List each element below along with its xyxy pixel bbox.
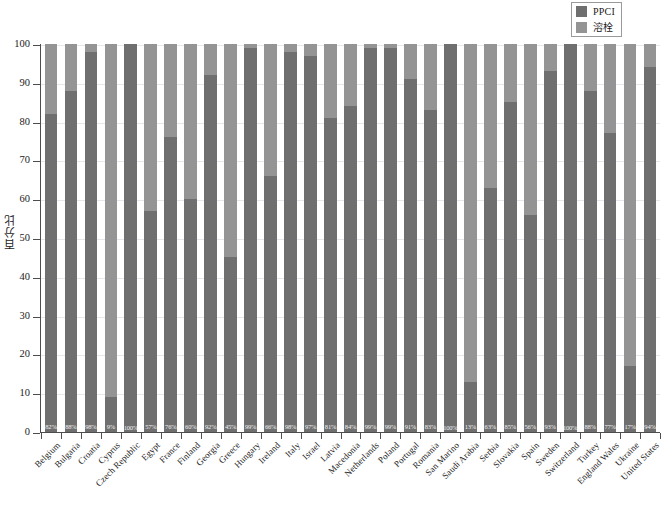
bar-segment-thrombolysis[interactable] — [624, 44, 637, 366]
bar-segment-ppci[interactable]: 83% — [424, 110, 437, 432]
stacked-bar[interactable]: 99% — [364, 44, 377, 432]
bar-segment-ppci[interactable]: 93% — [544, 71, 557, 432]
bar-segment-ppci[interactable]: 97% — [304, 56, 317, 432]
bar-segment-thrombolysis[interactable] — [45, 44, 58, 114]
bar-segment-thrombolysis[interactable] — [65, 44, 78, 91]
bar-value-label: 98% — [285, 424, 296, 431]
bar-segment-thrombolysis[interactable] — [164, 44, 177, 137]
stacked-bar[interactable]: 83% — [424, 44, 437, 432]
bar-segment-ppci[interactable]: 60% — [184, 199, 197, 432]
bar-value-label: 88% — [65, 424, 76, 431]
stacked-bar[interactable]: 100% — [124, 44, 137, 432]
bar-slot: 77% — [600, 44, 620, 432]
bar-segment-thrombolysis[interactable] — [85, 44, 98, 52]
stacked-bar[interactable]: 76% — [164, 44, 177, 432]
stacked-bar[interactable]: 88% — [65, 44, 78, 432]
bar-segment-ppci[interactable]: 45% — [224, 257, 237, 432]
bar-segment-ppci[interactable]: 98% — [85, 52, 98, 432]
bar-segment-thrombolysis[interactable] — [264, 44, 277, 176]
stacked-bar[interactable]: 100% — [564, 44, 577, 432]
bar-value-label: 57% — [145, 424, 156, 431]
x-axis-tick — [560, 433, 561, 439]
bar-segment-ppci[interactable]: 85% — [504, 102, 517, 432]
bar-segment-thrombolysis[interactable] — [204, 44, 217, 75]
bar-segment-ppci[interactable]: 98% — [284, 52, 297, 432]
stacked-bar[interactable]: 82% — [45, 44, 58, 432]
bar-segment-ppci[interactable]: 77% — [604, 133, 617, 432]
bar-segment-ppci[interactable]: 13% — [464, 382, 477, 432]
bar-segment-ppci[interactable]: 84% — [344, 106, 357, 432]
bar-segment-ppci[interactable]: 66% — [264, 176, 277, 432]
bar-segment-thrombolysis[interactable] — [284, 44, 297, 52]
stacked-bar[interactable]: 99% — [384, 44, 397, 432]
bar-segment-ppci[interactable]: 56% — [524, 215, 537, 432]
stacked-bar[interactable]: 99% — [244, 44, 257, 432]
stacked-bar[interactable]: 60% — [184, 44, 197, 432]
bar-segment-thrombolysis[interactable] — [105, 44, 118, 397]
bar-segment-ppci[interactable]: 57% — [144, 211, 157, 432]
bar-segment-thrombolysis[interactable] — [504, 44, 517, 102]
bar-segment-thrombolysis[interactable] — [524, 44, 537, 215]
stacked-bar[interactable]: 100% — [444, 44, 457, 432]
bar-segment-thrombolysis[interactable] — [424, 44, 437, 110]
stacked-bar[interactable]: 88% — [584, 44, 597, 432]
bar-slot: 85% — [500, 44, 520, 432]
stacked-bar[interactable]: 93% — [544, 44, 557, 432]
bar-segment-ppci[interactable]: 99% — [384, 48, 397, 432]
bar-value-label: 94% — [644, 424, 655, 431]
bar-segment-thrombolysis[interactable] — [224, 44, 237, 257]
bar-segment-ppci[interactable]: 100% — [444, 44, 457, 432]
bar-segment-ppci[interactable]: 63% — [484, 188, 497, 432]
bar-segment-thrombolysis[interactable] — [484, 44, 497, 188]
bar-segment-ppci[interactable]: 17% — [624, 366, 637, 432]
stacked-bar[interactable]: 94% — [644, 44, 657, 432]
stacked-bar[interactable]: 97% — [304, 44, 317, 432]
y-axis-tick-label: 100 — [14, 38, 30, 49]
bar-segment-ppci[interactable]: 100% — [564, 44, 577, 432]
legend-item-ppci[interactable]: PPCI — [576, 6, 615, 17]
bar-segment-thrombolysis[interactable] — [144, 44, 157, 211]
bar-segment-ppci[interactable]: 81% — [324, 118, 337, 432]
bar-slot: 97% — [301, 44, 321, 432]
stacked-bar[interactable]: 98% — [85, 44, 98, 432]
bar-segment-thrombolysis[interactable] — [644, 44, 657, 67]
stacked-bar[interactable]: 91% — [404, 44, 417, 432]
bar-segment-thrombolysis[interactable] — [184, 44, 197, 199]
bar-segment-ppci[interactable]: 82% — [45, 114, 58, 432]
stacked-bar[interactable]: 56% — [524, 44, 537, 432]
bar-segment-thrombolysis[interactable] — [604, 44, 617, 133]
stacked-bar[interactable]: 9% — [105, 44, 118, 432]
bar-segment-ppci[interactable]: 99% — [244, 48, 257, 432]
y-axis-tick-label: 50 — [20, 232, 31, 243]
bar-segment-ppci[interactable]: 9% — [105, 397, 118, 432]
legend-item-thrombolysis[interactable]: 溶栓 — [576, 22, 615, 33]
bar-segment-ppci[interactable]: 91% — [404, 79, 417, 432]
bar-segment-ppci[interactable]: 88% — [65, 91, 78, 432]
bar-segment-thrombolysis[interactable] — [544, 44, 557, 71]
stacked-bar[interactable]: 66% — [264, 44, 277, 432]
stacked-bar[interactable]: 84% — [344, 44, 357, 432]
stacked-bar[interactable]: 57% — [144, 44, 157, 432]
stacked-bar[interactable]: 17% — [624, 44, 637, 432]
bar-segment-ppci[interactable]: 88% — [584, 91, 597, 432]
stacked-bar[interactable]: 63% — [484, 44, 497, 432]
bar-segment-thrombolysis[interactable] — [584, 44, 597, 91]
bar-segment-ppci[interactable]: 76% — [164, 137, 177, 432]
stacked-bar[interactable]: 77% — [604, 44, 617, 432]
stacked-bar[interactable]: 13% — [464, 44, 477, 432]
bar-segment-thrombolysis[interactable] — [344, 44, 357, 106]
bar-segment-ppci[interactable]: 100% — [124, 44, 137, 432]
bar-segment-thrombolysis[interactable] — [304, 44, 317, 56]
x-axis-tick — [181, 433, 182, 439]
stacked-bar[interactable]: 81% — [324, 44, 337, 432]
stacked-bar[interactable]: 98% — [284, 44, 297, 432]
bar-segment-ppci[interactable]: 94% — [644, 67, 657, 432]
stacked-bar[interactable]: 85% — [504, 44, 517, 432]
stacked-bar[interactable]: 92% — [204, 44, 217, 432]
bar-segment-thrombolysis[interactable] — [404, 44, 417, 79]
bar-segment-ppci[interactable]: 92% — [204, 75, 217, 432]
bar-segment-thrombolysis[interactable] — [464, 44, 477, 382]
bar-segment-thrombolysis[interactable] — [324, 44, 337, 118]
bar-segment-ppci[interactable]: 99% — [364, 48, 377, 432]
stacked-bar[interactable]: 45% — [224, 44, 237, 432]
